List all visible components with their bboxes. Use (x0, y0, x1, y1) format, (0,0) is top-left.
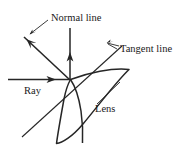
lens-inner-arc (71, 80, 83, 144)
tangent-line-label: Tangent line (120, 43, 172, 54)
ray-label: Ray (24, 85, 42, 96)
optics-diagram: Normal line Tangent line Ray Lens (0, 0, 176, 156)
lens-label: Lens (95, 103, 115, 114)
lens-label-leader (97, 82, 120, 104)
tangent-line-leader-arrowhead (107, 39, 114, 43)
normal-line-label-leader (30, 20, 48, 34)
normal-line-label: Normal line (51, 12, 102, 23)
reflected-ray (24, 37, 70, 80)
diagram-canvas: Normal line Tangent line Ray Lens (0, 0, 176, 156)
